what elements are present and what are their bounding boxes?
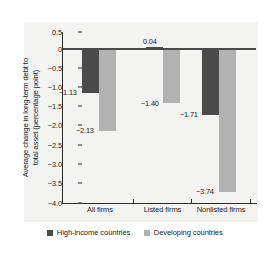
x-axis-separator bbox=[250, 199, 251, 204]
bar-chart: 0.5 0 −0.5 −1.0 −1.5 −2.0 −2.5 −3.0 −3.5… bbox=[0, 0, 270, 262]
zero-reference-line bbox=[63, 48, 256, 50]
legend-item-developing: Developing countries bbox=[144, 228, 222, 237]
x-axis-line bbox=[62, 203, 257, 204]
x-category-label-all-firms: All firms bbox=[70, 205, 130, 214]
bar-value-label: −1.71 bbox=[180, 110, 198, 119]
bar-listed-firms-developing bbox=[163, 50, 180, 103]
y-tick-label: −4.0 bbox=[26, 199, 62, 208]
bar-value-label: −2.13 bbox=[76, 126, 94, 135]
legend-swatch-icon bbox=[144, 230, 150, 236]
bar-value-label: 0.04 bbox=[143, 37, 157, 46]
y-tick-mark bbox=[78, 32, 82, 33]
y-axis-title: Average change in long-term debt to tota… bbox=[21, 38, 40, 198]
x-category-label-listed-firms: Listed firms bbox=[134, 205, 191, 214]
y-tick-mark bbox=[78, 164, 82, 165]
chart-legend: High-income countries Developing countri… bbox=[0, 228, 270, 237]
legend-item-high-income: High-income countries bbox=[47, 228, 130, 237]
bar-value-label: −1.40 bbox=[141, 99, 159, 108]
bar-nonlisted-firms-developing bbox=[219, 50, 236, 192]
bar-nonlisted-firms-high-income bbox=[202, 50, 219, 115]
bar-all-firms-high-income bbox=[82, 50, 99, 93]
y-tick-mark bbox=[78, 106, 82, 107]
x-axis-separator bbox=[191, 199, 192, 204]
x-category-label-nonlisted-firms: Nonlisted firms bbox=[191, 205, 251, 214]
y-axis-line bbox=[62, 32, 63, 204]
legend-label: High-income countries bbox=[57, 228, 130, 237]
bar-all-firms-developing bbox=[99, 50, 116, 131]
y-tick-label: 0.5 bbox=[26, 28, 62, 37]
x-axis-separator bbox=[133, 199, 134, 204]
y-axis-title-line-1: Average change in long-term debt to bbox=[21, 38, 31, 198]
y-axis-title-line-2: total asset (percentage point) bbox=[31, 38, 41, 198]
bar-value-label: −1.13 bbox=[59, 88, 77, 97]
y-tick-mark bbox=[78, 183, 82, 184]
legend-swatch-icon bbox=[47, 230, 53, 236]
bar-value-label: −3.74 bbox=[196, 187, 214, 196]
y-tick-mark bbox=[78, 145, 82, 146]
legend-label: Developing countries bbox=[154, 228, 223, 237]
